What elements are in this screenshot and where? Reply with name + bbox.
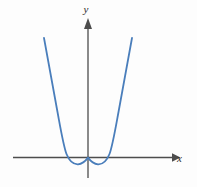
x-axis-label: x xyxy=(176,152,182,164)
y-axis-label: y xyxy=(83,3,89,15)
plot-canvas: x y xyxy=(0,0,197,187)
math-figure: x y xyxy=(0,0,197,187)
y-axis-arrowhead xyxy=(84,18,92,29)
